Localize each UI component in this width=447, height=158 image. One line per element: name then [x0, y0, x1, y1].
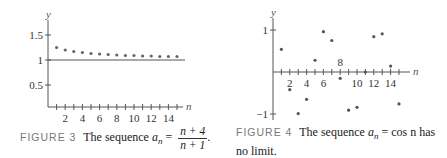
caption-period: .: [207, 130, 210, 144]
x-tick-label: 6: [97, 112, 103, 124]
data-point: [339, 77, 342, 80]
data-point: [389, 65, 392, 68]
data-point: [175, 55, 178, 58]
data-point: [98, 52, 101, 55]
fraction: n + 4 n + 1: [178, 125, 207, 152]
x-tick-label: 14: [385, 77, 397, 89]
figure-4-tag: FIGURE 4: [236, 126, 292, 138]
x-axis-label: n: [186, 100, 192, 112]
x-tick-label: 4: [304, 77, 310, 89]
equals-sign: =: [165, 130, 172, 144]
data-point: [322, 30, 325, 33]
x-tick-label: 14: [163, 112, 175, 124]
figure-3-tag: FIGURE 3: [20, 131, 76, 143]
x-tick-label: 12: [368, 77, 379, 89]
data-point: [347, 109, 350, 112]
x-tick-label: 4: [80, 112, 86, 124]
sequence-symbol: an: [152, 130, 163, 144]
y-axis-label: y: [45, 8, 51, 20]
x-tick-label: 8: [337, 56, 343, 68]
data-point: [381, 32, 384, 35]
data-point: [397, 102, 400, 105]
data-point: [107, 53, 110, 56]
y-tick-label: 1.5: [29, 29, 43, 41]
x-axis-label: n: [413, 65, 419, 77]
data-point: [280, 48, 283, 51]
data-point: [81, 51, 84, 54]
data-point: [372, 35, 375, 38]
x-tick-label: 12: [146, 112, 157, 124]
data-point: [132, 54, 135, 57]
y-tick-label: 1: [38, 54, 44, 66]
numerator: n + 4: [178, 125, 207, 139]
x-tick-label: 2: [62, 112, 68, 124]
data-point: [313, 59, 316, 62]
data-point: [64, 48, 67, 51]
figure-3: yn1.510.52468101214 FIGURE 3 The sequenc…: [0, 0, 220, 158]
caption-line2: no limit.: [236, 144, 277, 158]
x-tick-label: 2: [287, 77, 293, 89]
y-tick-label: −1: [256, 108, 268, 120]
y-tick-label: 0.5: [29, 79, 43, 91]
denominator: n + 1: [178, 139, 207, 152]
y-tick-label: 1: [263, 24, 269, 36]
caption-rest: = cos n has: [381, 125, 435, 139]
x-tick-label: 10: [129, 112, 141, 124]
caption-text: The sequence: [83, 130, 149, 144]
figure-4-caption: FIGURE 4 The sequence an = cos n has no …: [236, 125, 436, 158]
data-point: [305, 98, 308, 101]
data-point: [55, 46, 58, 49]
data-point: [124, 54, 127, 57]
data-point: [89, 52, 92, 55]
data-point: [330, 39, 333, 42]
data-point: [297, 112, 300, 115]
data-point: [364, 70, 367, 73]
figure-3-caption: FIGURE 3 The sequence an = n + 4 n + 1 .: [20, 125, 210, 152]
data-point: [355, 106, 358, 109]
data-point: [72, 50, 75, 53]
x-tick-label: 6: [321, 77, 327, 89]
x-tick-label: 10: [352, 77, 364, 89]
data-point: [158, 55, 161, 58]
data-point: [150, 54, 153, 57]
caption-text: The sequence: [299, 125, 365, 139]
y-axis-label: y: [270, 6, 276, 18]
x-tick-label: 8: [114, 112, 120, 124]
figure-4: yn1−12468101214 FIGURE 4 The sequence an…: [220, 0, 447, 158]
data-point: [115, 53, 118, 56]
data-point: [288, 88, 291, 91]
data-point: [141, 54, 144, 57]
data-point: [167, 55, 170, 58]
sequence-symbol: an: [368, 125, 379, 139]
